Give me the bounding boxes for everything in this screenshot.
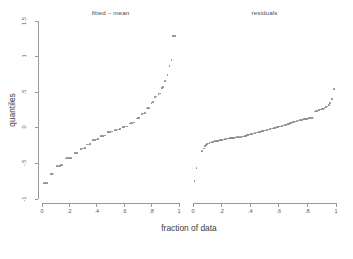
data-point <box>333 88 335 90</box>
data-point <box>331 98 333 100</box>
data-point <box>329 102 331 104</box>
data-point <box>196 167 198 169</box>
data-point <box>203 148 205 150</box>
x-axis-title: fraction of data <box>89 223 289 233</box>
plot-area-residuals <box>0 0 353 259</box>
quantile-plot-figure: -1-.50.511.5quantiles0.2.4.6.81fitted – … <box>0 0 353 259</box>
data-point <box>201 150 203 152</box>
data-point <box>194 180 196 182</box>
data-point <box>328 104 330 106</box>
